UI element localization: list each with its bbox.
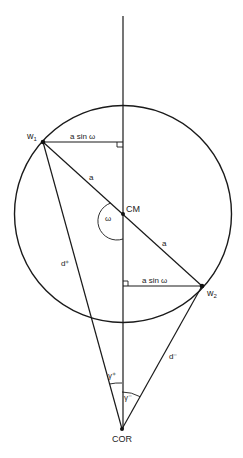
line-d-minus — [122, 286, 202, 429]
label-a-sin-omega-bottom: a sin ω — [142, 276, 167, 285]
label-cor: COR — [112, 434, 133, 444]
point-cor — [120, 427, 124, 431]
point-w2 — [200, 284, 205, 289]
line-d-plus — [43, 142, 122, 429]
label-a-upper: a — [89, 173, 94, 182]
label-cm: CM — [126, 204, 140, 214]
right-angle-marker-top — [117, 142, 123, 147]
label-w1: w1 — [26, 131, 38, 142]
label-d-plus: d⁺ — [61, 259, 69, 268]
gamma-plus-arc — [110, 383, 122, 384]
label-gamma-minus: γ⁻ — [124, 393, 132, 402]
label-a-sin-omega-top: a sin ω — [70, 132, 95, 141]
label-w2: w2 — [206, 288, 218, 299]
label-d-minus: d⁻ — [169, 352, 177, 361]
point-w1 — [41, 140, 46, 145]
label-gamma-plus: γ⁺ — [108, 371, 116, 380]
diagram-canvas: w1 w2 CM COR a sin ω a sin ω a a ω d⁺ d⁻… — [0, 0, 243, 458]
label-omega: ω — [105, 214, 111, 223]
label-a-lower: a — [162, 239, 167, 248]
point-cm — [121, 212, 125, 216]
right-angle-marker-bottom — [123, 281, 128, 286]
